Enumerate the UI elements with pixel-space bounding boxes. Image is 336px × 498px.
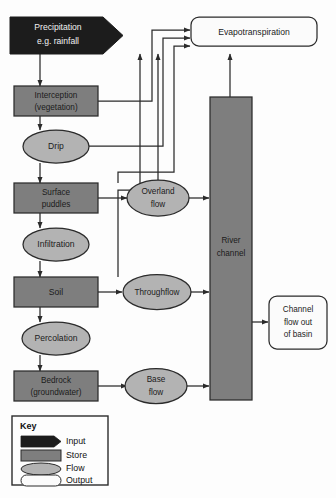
channel-flow-out-label-line2: flow out bbox=[284, 318, 313, 327]
node-base-flow: Base flow bbox=[125, 369, 187, 404]
river-channel-label-line1: River bbox=[221, 236, 240, 245]
connector-surfacepuddles-evapotranspiration bbox=[118, 46, 190, 183]
node-precipitation: Precipitation e.g. rainfall bbox=[10, 17, 123, 54]
key-label-flow: Flow bbox=[66, 463, 85, 473]
percolation-label: Percolation bbox=[35, 333, 78, 343]
base-flow-label-line1: Base bbox=[147, 375, 166, 384]
node-bedrock: Bedrock (groundwater) bbox=[14, 371, 98, 401]
channel-flow-out-label-line3: of basin bbox=[284, 330, 313, 339]
node-evapotranspiration: Evapotranspiration bbox=[191, 17, 317, 46]
base-flow-shape bbox=[125, 369, 187, 404]
drainage-basin-diagram: Precipitation e.g. rainfall Evapotranspi… bbox=[0, 0, 336, 498]
key-label-input: Input bbox=[66, 436, 86, 446]
node-overland-flow: Overland flow bbox=[127, 180, 189, 216]
node-interception: Interception (vegetation) bbox=[14, 86, 98, 116]
key-legend: Key Input Store Flow Output bbox=[12, 416, 108, 486]
channel-flow-out-label-line1: Channel bbox=[283, 305, 314, 314]
connector-soil-evapotranspiration bbox=[118, 54, 140, 277]
key-label-store: Store bbox=[66, 450, 87, 460]
diagram-canvas: Precipitation e.g. rainfall Evapotranspi… bbox=[0, 0, 336, 498]
precipitation-label-line2: e.g. rainfall bbox=[37, 36, 79, 46]
node-river-channel: River channel bbox=[210, 97, 252, 400]
infiltration-label: Infiltration bbox=[37, 239, 74, 249]
throughflow-label: Throughflow bbox=[134, 288, 179, 297]
soil-label: Soil bbox=[49, 287, 63, 297]
interception-label-line2: (vegetation) bbox=[34, 103, 78, 112]
node-drip: Drip bbox=[23, 130, 89, 163]
node-channel-flow-out: Channel flow out of basin bbox=[269, 296, 327, 349]
overland-flow-label-line2: flow bbox=[151, 200, 166, 209]
node-percolation: Percolation bbox=[22, 322, 90, 355]
key-swatch-output bbox=[21, 475, 61, 486]
node-throughflow: Throughflow bbox=[123, 275, 191, 310]
node-soil: Soil bbox=[14, 277, 98, 307]
key-label-output: Output bbox=[66, 475, 93, 485]
interception-label-line1: Interception bbox=[35, 91, 78, 100]
surface-puddles-label-line2: puddles bbox=[42, 200, 71, 209]
key-item-flow: Flow bbox=[21, 463, 85, 475]
key-item-input: Input bbox=[21, 436, 86, 447]
river-channel-label-line2: channel bbox=[217, 249, 246, 258]
key-swatch-flow bbox=[21, 463, 61, 475]
bedrock-label-line1: Bedrock bbox=[41, 376, 72, 385]
drip-label: Drip bbox=[48, 141, 64, 151]
key-swatch-store bbox=[21, 450, 61, 461]
surface-puddles-label-line1: Surface bbox=[42, 188, 71, 197]
bedrock-label-line2: (groundwater) bbox=[31, 388, 82, 397]
key-item-output: Output bbox=[21, 475, 93, 486]
key-item-store: Store bbox=[21, 450, 87, 461]
overland-flow-label-line1: Overland bbox=[141, 187, 175, 196]
key-title: Key bbox=[20, 421, 37, 431]
node-infiltration: Infiltration bbox=[23, 228, 89, 261]
base-flow-label-line2: flow bbox=[149, 388, 164, 397]
overland-flow-shape bbox=[127, 180, 189, 216]
precipitation-label-line1: Precipitation bbox=[34, 22, 82, 32]
evapotranspiration-label: Evapotranspiration bbox=[218, 27, 290, 37]
key-swatch-input bbox=[21, 436, 61, 447]
node-surface-puddles: Surface puddles bbox=[14, 183, 98, 213]
